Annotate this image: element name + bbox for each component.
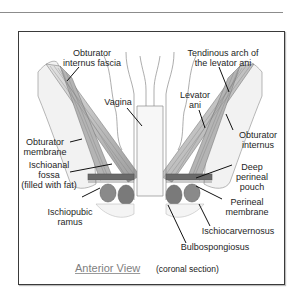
label-obturator-membrane: Obturator membrane (20, 137, 70, 157)
leader-line-obturator-internus-fascia (67, 67, 79, 81)
label-levator-ani: Levator ani (174, 90, 216, 110)
leader-line-ischiopubic-ramus (82, 188, 100, 197)
label-bulbospongiosus: Bulbospongiosus (176, 242, 254, 252)
leader-line-ischiocarvernosus (199, 204, 210, 226)
caption-title: Anterior View (75, 262, 140, 274)
label-ischioanal-fossa: Ischioanal fossa (filled with fat) (14, 160, 84, 190)
label-vagina: Vagina (99, 97, 137, 107)
label-ischiopubic-ramus: Ischiopubic ramus (45, 207, 95, 227)
label-obturator-internus: Obturator internus (232, 130, 284, 150)
perineal-soft-tissue (96, 204, 204, 217)
label-deep-perineal-pouch: Deep perineal pouch (230, 162, 274, 192)
caption-subtitle: (coronal section) (156, 264, 219, 274)
label-tendinous-arch: Tendinous arch of the levator ani (183, 48, 263, 68)
label-obturator-internus-fascia: Obturator internus fascia (62, 48, 122, 68)
label-ischiocarvernosus: Ischiocarvernosus (196, 226, 280, 236)
label-perineal-membrane: Perineal membrane (218, 197, 276, 217)
